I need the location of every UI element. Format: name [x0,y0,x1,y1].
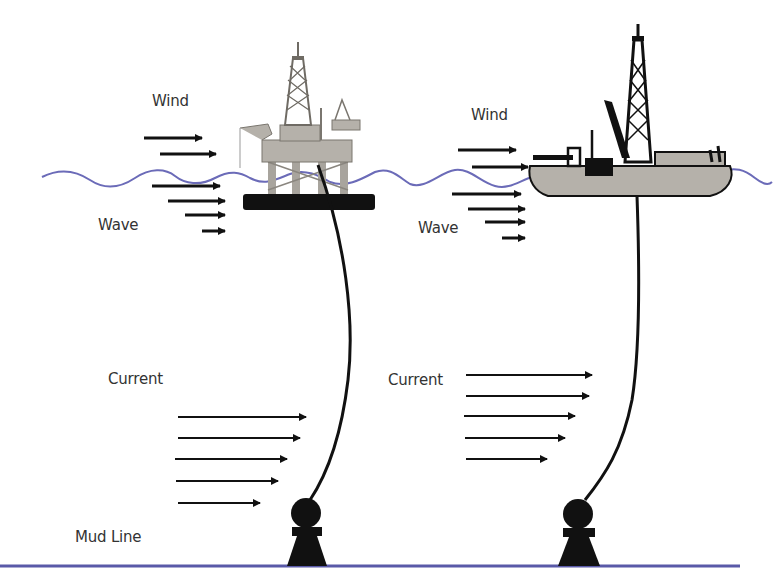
mud-line-label: Mud Line [75,528,141,546]
current-label-right: Current [388,371,443,389]
diagram-canvas [0,0,782,587]
wave-label-left: Wave [98,216,138,234]
wind-label-right: Wind [471,106,508,124]
semi-submersible-platform [240,42,375,210]
wave-label-right: Wave [418,219,458,237]
wind-arrows-left [144,138,216,154]
wave-arrows-left [152,186,225,231]
current-label-left: Current [108,370,163,388]
drillship [529,24,731,196]
riser-right [585,196,639,500]
wind-arrows-right [458,150,528,167]
current-arrows-left [175,417,306,503]
wave-arrows-right [452,194,525,238]
wind-label-left: Wind [152,92,189,110]
wellhead-left [287,498,327,566]
current-arrows-right [464,375,592,459]
riser-left [310,165,350,500]
wellhead-right [558,499,600,566]
riser-loading-diagram: Wind Wave Current Mud Line Wind Wave Cur… [0,0,782,587]
